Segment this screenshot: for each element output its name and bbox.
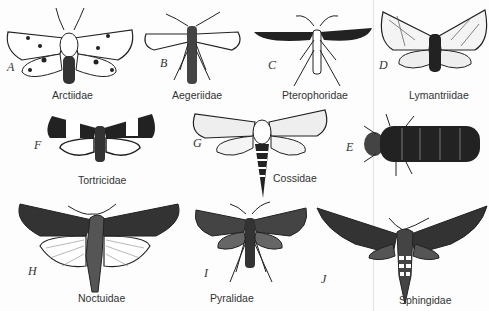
specimen-letter: F <box>34 138 41 153</box>
specimen-letter: A <box>7 60 14 75</box>
specimen-arctiidae: A Arctiidae <box>0 0 140 100</box>
specimen-cossidae: G Cossidae <box>185 108 335 198</box>
family-label: Pyralidae <box>210 292 254 304</box>
family-label: Tortricidae <box>78 174 126 186</box>
specimen-letter: B <box>160 56 167 71</box>
family-label: Sphingidae <box>399 294 452 306</box>
cossidae-moth-icon <box>185 108 335 198</box>
family-label: Cossidae <box>273 172 317 184</box>
family-label: Aegeriidae <box>172 89 222 101</box>
specimen-e: E <box>340 112 489 192</box>
specimen-tortricidae: F Tortricidae <box>30 110 170 190</box>
specimen-pterophoridae: C Pterophoridae <box>250 0 370 100</box>
specimen-aegeriidae: B Aegeriidae <box>140 0 245 100</box>
case-moth-larva-icon <box>340 112 489 192</box>
specimen-noctuidae: H Noctuidae <box>0 196 185 311</box>
family-label: Lymantriidae <box>409 89 469 101</box>
family-label: Noctuidae <box>78 292 125 304</box>
family-label: Pterophoridae <box>282 89 348 101</box>
specimen-letter: H <box>28 264 37 279</box>
specimen-letter: I <box>204 266 208 281</box>
specimen-sphingidae: J Sphingidae <box>315 200 489 311</box>
specimen-letter: J <box>321 272 326 287</box>
specimen-letter: G <box>193 136 202 151</box>
specimen-letter: D <box>379 58 388 73</box>
specimen-lymantriidae: D Lymantriidae <box>375 0 489 100</box>
arctiidae-moth-icon <box>0 0 140 100</box>
specimen-pyralidae: I Pyralidae <box>190 202 315 311</box>
specimen-letter: C <box>268 58 276 73</box>
moth-families-plate: A Arctiidae B Aegeriidae C Pterophoridae <box>0 0 489 311</box>
aegeriidae-moth-icon <box>140 0 245 100</box>
lymantriidae-moth-icon <box>375 0 489 100</box>
specimen-letter: E <box>346 140 353 155</box>
family-label: Arctiidae <box>52 89 93 101</box>
pterophoridae-moth-icon <box>250 0 370 100</box>
